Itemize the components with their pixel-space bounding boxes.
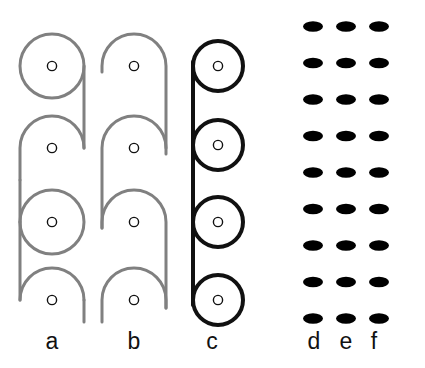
- center-marker: [213, 61, 222, 70]
- braid-f: [365, 0, 394, 359]
- braid-d: [299, 0, 328, 359]
- braid-e: [332, 0, 361, 359]
- center-marker: [47, 295, 56, 304]
- hook-arch: [102, 190, 166, 308]
- center-marker: [129, 217, 138, 226]
- center-marker: [47, 217, 56, 226]
- panel-c: [168, 0, 268, 340]
- center-marker: [213, 140, 222, 149]
- hook-arch: [102, 116, 166, 228]
- center-marker: [129, 61, 138, 70]
- center-marker: [47, 143, 56, 152]
- panel-label-f: f: [354, 330, 394, 353]
- center-marker: [213, 217, 222, 226]
- braid-group-graphic: .tone-d .bk{stroke:#3f3f3f;} .tone-d .md…: [286, 0, 425, 325]
- hook-arch: [102, 34, 166, 148]
- center-marker: [213, 295, 222, 304]
- braid-group: .tone-d .bk{stroke:#3f3f3f;} .tone-d .md…: [286, 0, 425, 325]
- panel-label-c: c: [192, 330, 232, 353]
- center-marker: [47, 61, 56, 70]
- panel-label-a: a: [32, 330, 72, 353]
- center-marker: [129, 143, 138, 152]
- center-marker: [129, 295, 138, 304]
- figure-root: .tone-d .bk{stroke:#3f3f3f;} .tone-d .md…: [0, 0, 425, 368]
- panel-c-graphic: [168, 0, 268, 340]
- panel-label-b: b: [114, 330, 154, 353]
